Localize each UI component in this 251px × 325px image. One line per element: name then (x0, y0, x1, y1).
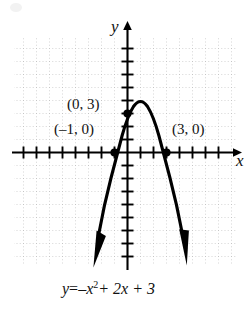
point-label-left-root: (–1, 0) (54, 122, 94, 137)
point-label-right-root: (3, 0) (172, 122, 205, 137)
equation-rhs-lead: –x (78, 280, 93, 297)
x-axis-label: x (236, 152, 244, 169)
point-y-intercept (123, 109, 131, 117)
parabola-figure: y x (0, 3) (–1, 0) (3, 0) y=–x2+ 2x + 3 (0, 0, 251, 325)
equation-caption: y=–x2+ 2x + 3 (62, 281, 155, 297)
y-axis-label: y (111, 18, 119, 35)
equation-rhs-tail: + 2x + 3 (98, 280, 155, 297)
equation-equals: = (69, 280, 78, 297)
point-right-root (162, 148, 170, 156)
point-left-root (110, 148, 118, 156)
point-label-y-intercept: (0, 3) (67, 97, 100, 112)
graph-canvas (0, 0, 251, 325)
